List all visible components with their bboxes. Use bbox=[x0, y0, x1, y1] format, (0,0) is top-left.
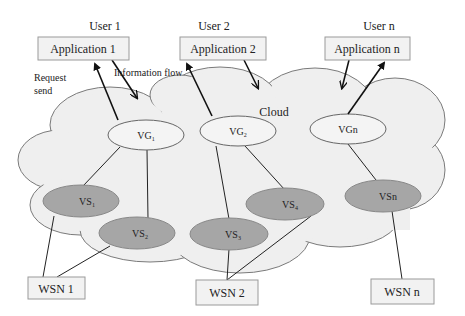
virtual-sensor-4[interactable]: VS4 bbox=[246, 188, 324, 220]
svg-text:Application 1: Application 1 bbox=[50, 42, 116, 56]
svg-text:VSn: VSn bbox=[379, 191, 397, 202]
user-2-label: User 2 bbox=[198, 19, 230, 33]
svg-text:WSN 2: WSN 2 bbox=[209, 286, 245, 300]
application-n-box[interactable]: Application n bbox=[325, 37, 410, 60]
virtual-sensor-1[interactable]: VS1 bbox=[43, 185, 119, 217]
cloud-sensor-diagram: VG1 VG2 VGn VS1 VS2 VS3 VS4 VSn User 1 U bbox=[0, 0, 465, 316]
svg-text:WSN n: WSN n bbox=[384, 285, 420, 299]
svg-text:Application n: Application n bbox=[334, 42, 400, 56]
virtual-group-1[interactable]: VG1 bbox=[108, 120, 184, 150]
virtual-sensor-n[interactable]: VSn bbox=[345, 180, 421, 212]
request-label: Request bbox=[34, 72, 66, 83]
virtual-sensor-2[interactable]: VS2 bbox=[99, 217, 175, 249]
user-n-label: User n bbox=[363, 19, 395, 33]
svg-text:Application 2: Application 2 bbox=[190, 42, 256, 56]
virtual-group-n[interactable]: VGn bbox=[310, 114, 386, 144]
wsn-1-box[interactable]: WSN 1 bbox=[28, 277, 85, 299]
virtual-sensor-3[interactable]: VS3 bbox=[190, 218, 268, 250]
svg-text:VGn: VGn bbox=[338, 124, 357, 135]
wsn-2-box[interactable]: WSN 2 bbox=[196, 280, 258, 305]
wsn-n-box[interactable]: WSN n bbox=[371, 279, 434, 304]
application-1-box[interactable]: Application 1 bbox=[38, 37, 129, 60]
information-flow-label: Information flow bbox=[114, 67, 183, 78]
send-label: send bbox=[34, 85, 52, 96]
user-1-label: User 1 bbox=[89, 19, 121, 33]
application-2-box[interactable]: Application 2 bbox=[180, 37, 266, 60]
svg-text:WSN 1: WSN 1 bbox=[38, 282, 74, 296]
virtual-group-2[interactable]: VG2 bbox=[200, 116, 276, 146]
cloud-label: Cloud bbox=[259, 105, 288, 119]
